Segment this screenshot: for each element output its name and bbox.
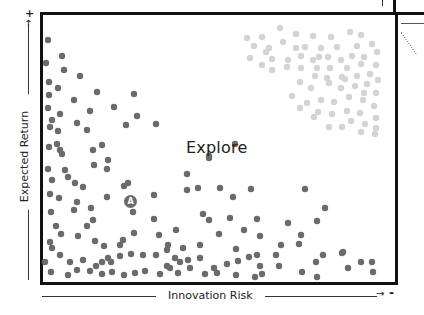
primary-dot [246,254,252,260]
faded-dot [338,57,344,63]
primary-dot [45,166,51,172]
primary-dot [140,252,146,258]
faded-dot [354,43,360,49]
faded-dot [312,73,318,79]
faded-dot [285,57,291,63]
primary-dot [47,239,53,245]
primary-dot [46,92,52,98]
primary-dot [49,117,55,123]
faded-dot [325,54,331,60]
primary-dot [53,223,59,229]
faded-dot [311,114,317,120]
primary-dot [254,252,260,258]
faded-dot [358,61,364,67]
primary-dot [117,253,123,259]
primary-dot [130,209,136,215]
x-axis-label: Innovation Risk [168,289,253,302]
primary-dot [298,232,304,238]
faded-dot [346,94,352,100]
primary-dot [55,128,61,134]
primary-dot [224,261,230,267]
primary-dot [84,223,90,229]
faded-dot [289,93,295,99]
primary-dot [47,191,53,197]
primary-dot [214,270,220,276]
faded-dot [328,34,334,40]
primary-dot [99,271,105,277]
primary-dot [104,194,110,200]
primary-dot [46,79,52,85]
faded-dot [358,129,364,135]
primary-dot [56,195,62,201]
primary-dot [93,263,99,269]
primary-dot [322,205,328,211]
primary-dot [99,259,105,265]
faded-dot [318,97,324,103]
primary-dot [296,241,302,247]
faded-dot [344,65,350,71]
primary-dot [173,227,179,233]
primary-dot [74,199,80,205]
primary-dot [248,186,254,192]
primary-dot [42,259,48,265]
faded-dot [269,56,275,62]
primary-dot [184,187,190,193]
faded-dot-series [244,25,381,137]
primary-dot [80,257,86,263]
x-axis-line-right [265,296,377,297]
primary-dot [202,271,208,277]
primary-dot [105,157,111,163]
faded-dot [342,76,348,82]
faded-dot [367,71,373,77]
faded-dot [310,33,316,39]
primary-dot [185,257,191,263]
primary-dot [65,272,71,278]
primary-dot [197,242,203,248]
faded-dot [329,111,335,117]
primary-dot [241,227,247,233]
primary-dot [233,272,239,278]
primary-dot [172,255,178,261]
faded-dot [284,64,290,70]
faded-dot [375,77,381,83]
faded-dot [374,49,380,55]
primary-dot [156,232,162,238]
primary-dot [273,252,279,258]
primary-dot [48,269,54,275]
faded-dot [360,97,366,103]
primary-dot [55,85,61,91]
primary-dot [252,274,258,280]
primary-dot [278,242,284,248]
primary-dot [108,259,114,265]
primary-dot [43,60,49,66]
faded-dot [308,85,314,91]
primary-dot [104,166,110,172]
faded-dot [251,43,257,49]
primary-dot [90,217,96,223]
primary-dot [54,141,60,147]
faded-dot [354,73,360,79]
primary-dot [48,209,54,215]
faded-dot [373,125,379,131]
primary-dot [117,242,123,248]
primary-dot [59,53,65,59]
primary-dot [62,167,68,173]
y-axis-line-top [28,24,29,94]
primary-dot [164,263,170,269]
faded-dot [344,108,350,114]
explore-annotation: Explore [186,138,247,157]
primary-dot [99,142,105,148]
primary-dot [87,108,93,114]
primary-dot [65,174,71,180]
faded-dot [304,100,310,106]
primary-dot [94,89,100,95]
primary-dot [90,147,96,153]
faded-dot [293,45,299,51]
faded-dot [352,83,358,89]
primary-dot [339,250,345,256]
primary-dot [235,258,241,264]
primary-dot [57,252,63,258]
y-axis-label: Expected Return [18,107,31,207]
faded-dot [331,99,337,105]
primary-dot [345,265,351,271]
